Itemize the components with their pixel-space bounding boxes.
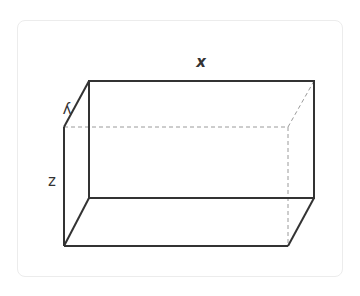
rectangular-prism-diagram: x y z (0, 0, 360, 296)
label-z: z (48, 172, 56, 190)
back-face (89, 81, 314, 198)
hidden-edges (64, 81, 314, 246)
label-y: y (62, 101, 71, 119)
hidden-edge-top-right (288, 81, 314, 127)
visible-edges (64, 81, 314, 246)
edge-bottom-right-depth (288, 198, 314, 246)
edge-bottom-left-depth (64, 198, 89, 246)
label-x: x (195, 53, 207, 71)
